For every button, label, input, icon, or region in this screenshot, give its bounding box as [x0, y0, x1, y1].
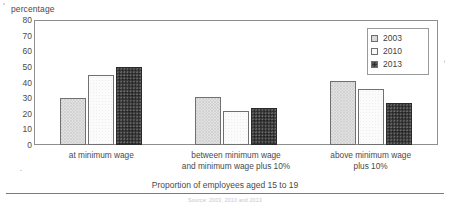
y-tick-label: 20	[10, 109, 32, 119]
bar-group	[60, 20, 142, 145]
bar-2013-2	[386, 103, 412, 145]
bar-2013-1	[251, 108, 277, 146]
y-tick-label: 70	[10, 31, 32, 41]
chart-legend: 200320102013	[367, 28, 429, 75]
category-label-line: plus 10%	[296, 161, 446, 172]
legend-item-2010[interactable]: 2010	[371, 45, 424, 58]
legend-label: 2013	[383, 60, 402, 69]
y-tick-label: 40	[10, 78, 32, 88]
source-note: Source: 2003, 2010 and 2013	[0, 197, 450, 203]
scan-speck	[444, 60, 445, 63]
bar-2010-1	[223, 111, 249, 145]
category-label-line: and minimum wage plus 10%	[161, 161, 311, 172]
category-label-1: between minimum wageand minimum wage plu…	[161, 150, 311, 171]
bar-2010-2	[358, 89, 384, 145]
horizontal-rule-divider	[6, 193, 444, 194]
bar-2003-2	[330, 81, 356, 145]
y-tick-label: 50	[10, 62, 32, 72]
category-label-0: at minimum wage	[26, 150, 176, 161]
y-tick-label: 80	[10, 15, 32, 25]
bar-2003-1	[195, 97, 221, 145]
category-label-line: between minimum wage	[161, 150, 311, 161]
bar-2003-0	[60, 98, 86, 145]
bar-chart-figure: percentage 01020304050607080 at minimum …	[0, 0, 450, 205]
legend-label: 2010	[383, 47, 402, 56]
legend-swatch-icon	[371, 61, 378, 68]
bar-group	[195, 20, 277, 145]
scan-speck	[3, 3, 5, 5]
category-label-line: above minimum wage	[296, 150, 446, 161]
y-tick-label: 60	[10, 46, 32, 56]
legend-swatch-icon	[371, 35, 378, 42]
scan-speck	[20, 170, 22, 171]
y-tick-label: 10	[10, 124, 32, 134]
x-axis-title: Proportion of employees aged 15 to 19	[0, 180, 450, 190]
category-label-2: above minimum wageplus 10%	[296, 150, 446, 171]
bar-2013-0	[116, 67, 142, 145]
legend-swatch-icon	[371, 48, 378, 55]
legend-item-2003[interactable]: 2003	[371, 32, 424, 45]
legend-label: 2003	[383, 34, 402, 43]
legend-item-2013[interactable]: 2013	[371, 58, 424, 71]
y-tick-label: 30	[10, 93, 32, 103]
category-label-line: at minimum wage	[26, 150, 176, 161]
bar-2010-0	[88, 75, 114, 145]
y-tick-label: 0	[10, 140, 32, 150]
y-axis-title: percentage	[11, 4, 55, 14]
